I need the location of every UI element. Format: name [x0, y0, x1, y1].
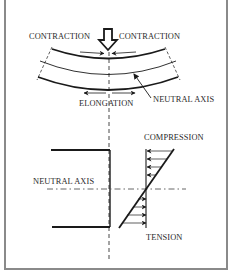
contraction-arrows	[80, 52, 136, 54]
contraction-left-label: CONTRACTION	[29, 32, 90, 41]
beam-neutral-fiber	[40, 61, 176, 75]
neutral-axis-top-label: NEUTRAL AXIS	[153, 95, 214, 104]
beam-bending-diagram: CONTRACTION CONTRACTION ELONGATION NEUTR…	[0, 0, 242, 277]
neutral-axis-bottom-label: NEUTRAL AXIS	[33, 177, 94, 186]
stress-distribution	[119, 149, 174, 228]
beam-bottom-fiber	[38, 77, 178, 90]
load-arrow-icon	[99, 29, 117, 50]
compression-label: COMPRESSION	[144, 133, 204, 142]
beam-cross-section	[51, 150, 110, 227]
contraction-right-label: CONTRACTION	[119, 32, 180, 41]
tension-label: TENSION	[146, 233, 183, 242]
elongation-label: ELONGATION	[79, 99, 134, 108]
bent-beam	[37, 47, 180, 90]
